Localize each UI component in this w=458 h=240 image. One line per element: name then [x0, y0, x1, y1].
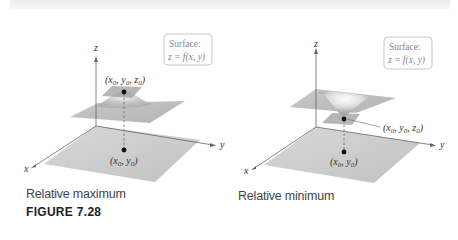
- tangent-plane: [322, 113, 360, 125]
- z-axis-arrow-icon: [94, 56, 98, 62]
- min-point-label: (x0, y0, z0): [383, 122, 424, 135]
- base-point: [342, 150, 347, 155]
- y-axis-arrow-icon: [210, 143, 216, 147]
- surface-label-line2: z = f(x, y): [387, 55, 425, 66]
- xy-plane: [264, 127, 420, 183]
- figure-number: FIGURE 7.28: [26, 205, 101, 219]
- z-axis-label: z: [93, 42, 98, 53]
- z-axis-label: z: [313, 38, 318, 49]
- x-axis-arrow-icon: [251, 166, 256, 170]
- max-point-label: (x0, y0, z0): [105, 74, 146, 87]
- x-axis-label: x: [23, 163, 29, 174]
- y-axis-arrow-icon: [430, 143, 436, 147]
- surface-label-line2: z = f(x, y): [167, 52, 205, 63]
- xy-plane: [44, 126, 200, 182]
- caption-relative-minimum: Relative minimum: [238, 189, 334, 203]
- y-axis-label: y: [439, 139, 445, 150]
- y-axis-label: y: [219, 139, 225, 150]
- max-point: [122, 90, 127, 95]
- right-panel: z y x (x0, y0, z0) (x0, y0) Surface: z =…: [243, 37, 445, 183]
- x-axis-label: x: [243, 165, 249, 176]
- left-panel: z y x (x0, y0, z0) (x0, y0) Surface: z =…: [23, 34, 225, 182]
- min-point: [342, 117, 347, 122]
- x-axis-arrow-icon: [31, 164, 36, 168]
- base-point: [122, 148, 127, 153]
- caption-relative-maximum: Relative maximum: [26, 187, 126, 201]
- surface-label-line1: Surface:: [169, 39, 201, 49]
- surface-label-line1: Surface:: [389, 42, 421, 52]
